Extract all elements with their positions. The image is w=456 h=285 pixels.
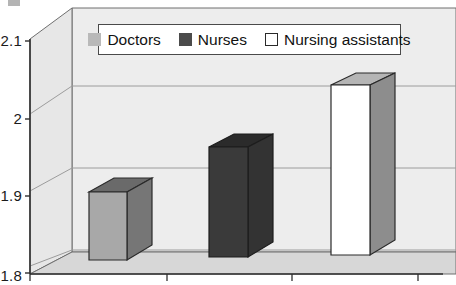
legend-item-doctors: Doctors bbox=[79, 32, 169, 48]
bar-nursing-assistants bbox=[331, 73, 395, 255]
y-tick-label-2: 2 bbox=[13, 110, 22, 127]
legend-swatch-nurses-icon bbox=[179, 33, 192, 46]
legend-label-doctors: Doctors bbox=[107, 32, 160, 48]
y-tick-label-1.8: 1.8 bbox=[1, 267, 22, 284]
bar-doctors bbox=[89, 178, 152, 260]
legend-label-nurses: Nurses bbox=[198, 32, 247, 48]
legend-swatch-doctors-icon bbox=[88, 33, 101, 46]
bar-nursing-assistants-side bbox=[370, 73, 395, 255]
y-tick-label-2.1: 2.1 bbox=[1, 32, 22, 49]
bar-doctors-front bbox=[89, 192, 127, 260]
bar-nurses-front bbox=[209, 147, 248, 257]
bar-nurses bbox=[209, 134, 273, 257]
bar-nursing-assistants-front bbox=[331, 85, 370, 255]
chart-legend: Doctors Nurses Nursing assistants bbox=[98, 24, 401, 55]
bar-nurses-side bbox=[248, 134, 273, 257]
chart-figure: 2.1 2 1.9 1.8 Do bbox=[0, 0, 456, 285]
bar-doctors-side bbox=[127, 178, 152, 260]
legend-item-nursing-assistants: Nursing assistants bbox=[256, 32, 420, 48]
legend-item-nurses: Nurses bbox=[170, 32, 256, 48]
y-tick-label-1.9: 1.9 bbox=[1, 187, 22, 204]
legend-swatch-nursing-assistants-icon bbox=[265, 33, 278, 46]
legend-label-nursing-assistants: Nursing assistants bbox=[284, 32, 411, 48]
plot-left-wall bbox=[30, 8, 72, 274]
